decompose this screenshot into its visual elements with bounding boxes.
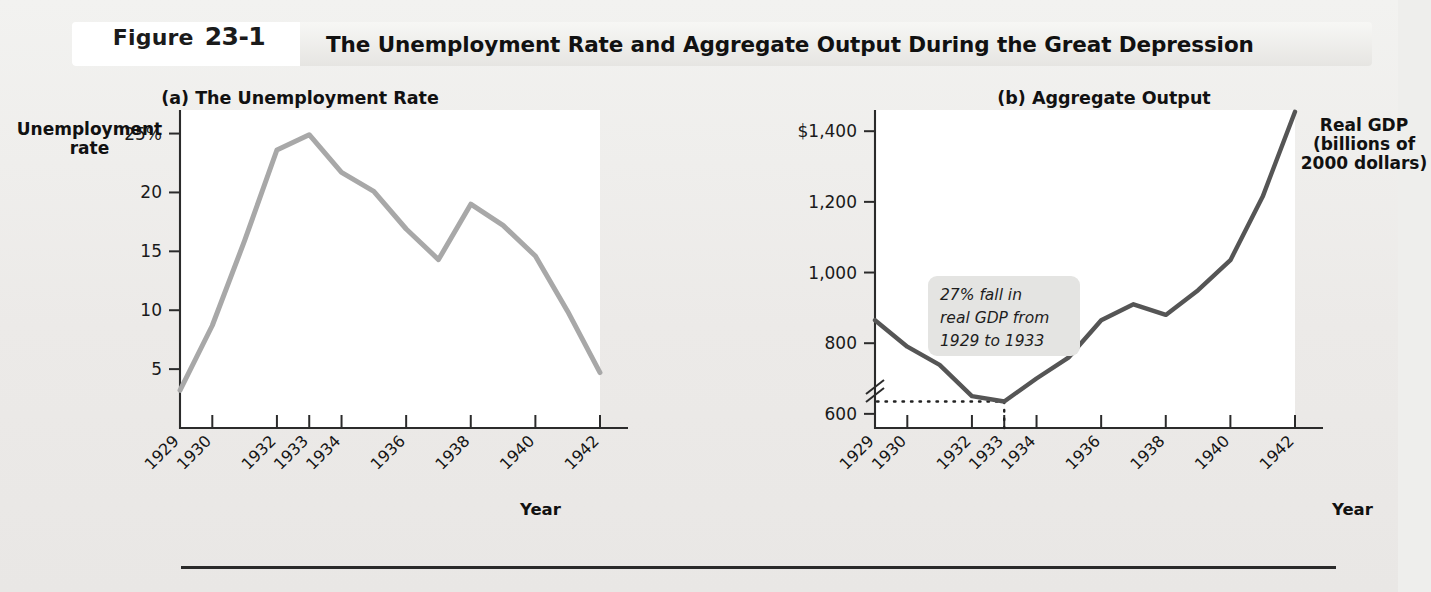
panel-a-y-axis-title: Unemployment rate: [12, 120, 167, 158]
y-tick-label: 600: [825, 404, 857, 424]
y-tick-label: 10: [140, 300, 162, 320]
y-tick-label: 5: [151, 359, 162, 379]
x-tick-label: 1933: [965, 431, 1007, 473]
y-axis-ticks-b: 6008001,0001,200$1,400: [798, 121, 875, 424]
y-tick-label: 15: [140, 241, 162, 261]
panel-a-subtitle: (a) The Unemployment Rate: [0, 88, 660, 108]
figure-header: Figure 23-1 The Unemployment Rate and Ag…: [72, 22, 1372, 66]
panel-aggregate-output: (b) Aggregate Output Real GDP (billions …: [640, 88, 1398, 558]
x-tick-label: 1934: [997, 431, 1039, 473]
x-tick-label: 1938: [1126, 431, 1168, 473]
plot-area-b: [875, 110, 1295, 428]
x-tick-label: 1940: [496, 431, 538, 473]
x-tick-label: 1938: [431, 431, 473, 473]
plot-area-a: [180, 110, 600, 428]
x-tick-label: 1930: [868, 431, 910, 473]
y-tick-label: 1,200: [808, 192, 857, 212]
annotation-line-1: 27% fall in: [940, 286, 1022, 304]
gdp-annotation: 27% fall in real GDP from 1929 to 1933: [928, 276, 1080, 356]
x-tick-label: 1934: [302, 431, 344, 473]
figure-tag: Figure 23-1: [72, 22, 300, 66]
y-tick-label: 20: [140, 182, 162, 202]
y-tick-label: $1,400: [798, 121, 857, 141]
figure-title: The Unemployment Rate and Aggregate Outp…: [326, 32, 1254, 57]
x-tick-label: 1932: [238, 431, 280, 473]
figure-label: Figure: [113, 25, 194, 50]
panel-b-x-axis-title: Year: [1332, 500, 1373, 519]
x-tick-label: 1942: [561, 431, 603, 473]
panel-b-y-axis-title: Real GDP (billions of 2000 dollars): [1278, 116, 1431, 173]
panel-unemployment-rate: (a) The Unemployment Rate Unemployment r…: [0, 88, 660, 558]
figure-number: 23-1: [205, 22, 266, 51]
x-tick-label: 1936: [1062, 431, 1104, 473]
annotation-line-3: 1929 to 1933: [940, 332, 1044, 350]
x-tick-label: 1929: [836, 431, 878, 473]
x-tick-label: 1932: [933, 431, 975, 473]
panel-a-x-axis-title: Year: [520, 500, 561, 519]
x-tick-label: 1933: [270, 431, 312, 473]
x-tick-label: 1929: [141, 431, 183, 473]
x-tick-label: 1942: [1256, 431, 1298, 473]
y-axis-ticks-a: 510152025%: [124, 124, 180, 380]
x-tick-label: 1930: [173, 431, 215, 473]
x-tick-label: 1936: [367, 431, 409, 473]
panel-b-subtitle: (b) Aggregate Output: [640, 88, 1398, 108]
y-tick-label: 1,000: [808, 263, 857, 283]
footer-divider: [181, 566, 1336, 569]
x-tick-label: 1940: [1191, 431, 1233, 473]
y-tick-label: 800: [825, 333, 857, 353]
annotation-line-2: real GDP from: [940, 309, 1049, 327]
